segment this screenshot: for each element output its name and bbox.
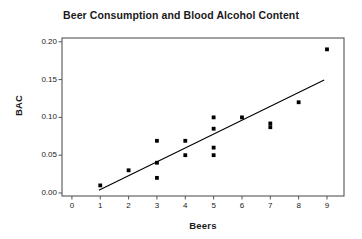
data-points: [98, 47, 329, 187]
x-tick-label-4: 4: [175, 201, 195, 210]
data-point-14: [297, 100, 301, 104]
data-point-6: [183, 153, 187, 157]
data-point-15: [325, 47, 329, 51]
data-point-11: [240, 115, 244, 119]
data-point-7: [212, 115, 216, 119]
y-tick-label-0: 0.00: [17, 188, 57, 197]
y-tick-label-4: 0.20: [17, 37, 57, 46]
x-tick-label-8: 8: [289, 201, 309, 210]
regression-line: [99, 80, 324, 190]
data-point-8: [212, 127, 216, 131]
x-tick-label-9: 9: [317, 201, 337, 210]
axis-ticks: [59, 42, 327, 200]
data-point-5: [183, 139, 187, 143]
data-point-9: [212, 146, 216, 150]
data-point-3: [155, 161, 159, 165]
x-tick-label-0: 0: [62, 201, 82, 210]
plot-frame: [62, 38, 344, 196]
data-point-2: [155, 139, 159, 143]
x-tick-label-3: 3: [147, 201, 167, 210]
y-tick-label-1: 0.05: [17, 150, 57, 159]
data-point-13: [268, 125, 272, 129]
data-point-1: [127, 168, 131, 172]
axes-frame: [62, 38, 344, 196]
data-point-0: [98, 184, 102, 188]
fit-line: [99, 80, 324, 190]
x-tick-label-5: 5: [204, 201, 224, 210]
x-tick-label-7: 7: [260, 201, 280, 210]
data-point-4: [155, 176, 159, 180]
data-point-10: [212, 153, 216, 157]
x-tick-label-1: 1: [90, 201, 110, 210]
x-tick-label-2: 2: [119, 201, 139, 210]
chart-figure: Beer Consumption and Blood Alcohol Conte…: [0, 0, 362, 239]
y-tick-label-3: 0.15: [17, 75, 57, 84]
y-tick-label-2: 0.10: [17, 112, 57, 121]
data-point-12: [268, 122, 272, 126]
x-tick-label-6: 6: [232, 201, 252, 210]
